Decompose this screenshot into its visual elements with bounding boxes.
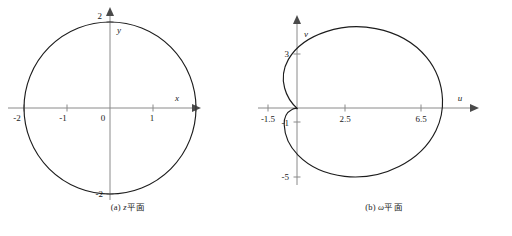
z-plane-caption-prefix: (a)	[111, 202, 121, 212]
w-plane-vticklabel--5: -5	[282, 172, 290, 182]
w-plane-uticklabel-2.5: 2.5	[339, 114, 351, 124]
z-plane-plot: -2 -1 0 1 2 -2 x y	[0, 0, 256, 205]
z-plane-xticklabel--1: -1	[59, 113, 67, 123]
w-plane-caption-prefix: (b)	[365, 202, 376, 212]
w-plane-vticklabel--1: -1	[282, 118, 290, 128]
z-plane-yticklabel-2: 2	[98, 11, 103, 21]
w-plane-v-axis-label: v	[304, 29, 308, 39]
w-plane-u-axis-label: u	[458, 93, 463, 103]
z-plane-xticklabel-1: 1	[150, 113, 155, 123]
w-plane-caption: (b) ω平面	[256, 200, 512, 212]
w-plane-cardioid-curve	[283, 27, 442, 177]
panel-w-plane: -1.5 2.5 6.5 3 -1 -5 u v (b) ω平面	[256, 0, 512, 236]
figure-root: -2 -1 0 1 2 -2 x y (a) z平面	[0, 0, 512, 236]
z-plane-xticklabel--2: -2	[13, 113, 21, 123]
z-plane-caption: (a) z平面	[0, 200, 256, 212]
z-plane-x-axis-label: x	[174, 93, 179, 103]
w-plane-u-axis-arrowhead	[470, 104, 479, 112]
z-plane-yticklabel--2: -2	[96, 189, 104, 199]
z-plane-y-axis-label: y	[116, 25, 121, 35]
w-plane-uticklabel-6.5: 6.5	[415, 114, 427, 124]
w-plane-v-axis-arrowhead	[293, 15, 301, 24]
w-plane-caption-suffix: 平面	[384, 202, 402, 212]
w-plane-uticklabel--1.5: -1.5	[261, 114, 276, 124]
w-plane-vticklabel-3: 3	[285, 49, 290, 59]
z-plane-y-axis-arrowhead	[106, 7, 114, 16]
z-plane-origin-label: 0	[101, 113, 106, 123]
z-plane-caption-suffix: 平面	[127, 202, 145, 212]
w-plane-plot: -1.5 2.5 6.5 3 -1 -5 u v	[256, 0, 512, 205]
panel-z-plane: -2 -1 0 1 2 -2 x y (a) z平面	[0, 0, 256, 236]
